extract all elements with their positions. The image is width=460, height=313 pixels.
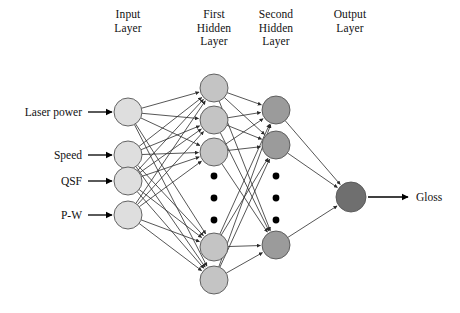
first-hidden-node-2 [200,106,228,134]
connection-edge [285,121,340,185]
connection-edge [141,220,199,242]
input-layer-title: Input Layer [83,8,173,35]
input-label-1: Laser power [0,106,82,119]
second-hidden-node-2 [262,131,290,159]
input-layer-nodes [114,98,142,229]
second-hidden-ellipsis-dot-2 [273,195,280,202]
input-label-4: P-W [0,209,82,222]
connection-edge [228,246,261,247]
output-node-1 [336,182,366,212]
connection-edge [222,164,268,232]
output-layer-nodes [336,182,366,212]
output-layer-title: Output Layer [305,8,395,35]
connection-edge [139,98,202,147]
second-hidden-node-1 [262,96,290,124]
first-hidden-ellipsis-dot-1 [211,173,218,180]
first-hidden-node-5 [200,266,228,294]
first-hidden-node-3 [200,138,228,166]
input-node-1 [114,98,142,126]
input-label-3: QSF [0,175,82,188]
connection-edge [288,153,338,188]
input-node-2 [114,141,142,169]
neural-network-diagram: Input LayerFirst Hidden LayerSecond Hidd… [0,0,460,313]
connection-edge [134,124,207,266]
edges-second-hidden-to-output [285,121,340,238]
connection-edge [227,93,261,105]
connection-edge [226,253,262,274]
connection-edge [141,157,199,177]
connection-edge [141,92,199,108]
first-hidden-node-4 [200,233,228,261]
input-node-3 [114,167,142,195]
first-hidden-ellipsis-dot-2 [211,195,218,202]
input-node-4 [114,201,142,229]
output-label-1: Gloss [416,191,442,204]
connection-edge [228,147,261,151]
input-label-2: Speed [0,149,82,162]
connection-edge [138,99,204,170]
first-hidden-ellipsis-dot-3 [211,217,218,224]
input-arrows [88,112,112,215]
connection-edge [228,112,261,117]
first-hidden-node-1 [200,74,228,102]
connection-edge [288,206,337,238]
second-hidden-ellipsis-dot-3 [273,217,280,224]
edges-input-to-first-hidden [134,92,207,270]
second-hidden-node-3 [262,231,290,259]
second-hidden-ellipsis-dot-1 [273,173,280,180]
